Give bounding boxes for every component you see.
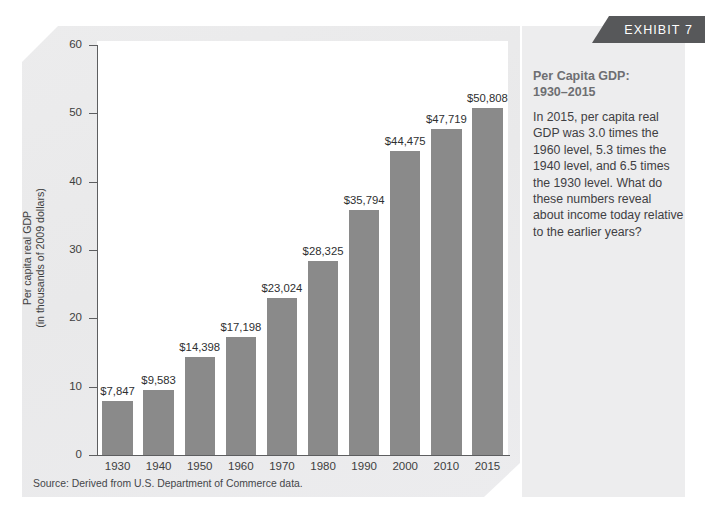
caption-body: In 2015, per capita real GDP was 3.0 tim… [533,109,685,240]
y-axis-tick-label: 30 [42,243,82,255]
bar [102,401,132,455]
y-axis-tick [89,455,97,456]
y-axis-tick [89,113,97,114]
bar-value-label: $50,808 [444,92,530,104]
bar [349,210,379,455]
y-axis-tick [89,250,97,251]
y-axis-tick-label: 40 [42,175,82,187]
y-axis-tick-label: 0 [42,448,82,460]
y-axis-tick [89,318,97,319]
bar [267,298,297,455]
y-axis-tick-label: 60 [42,38,82,50]
y-axis-tick [89,182,97,183]
source-note: Source: Derived from U.S. Department of … [33,478,303,489]
bar [431,129,461,455]
exhibit-banner: EXHIBIT 7 [592,16,705,43]
y-axis-tick-label: 50 [42,106,82,118]
caption-heading: Per Capita GDP: 1930–2015 [533,68,683,100]
bar [472,108,502,455]
y-axis-tick [89,45,97,46]
bar [390,151,420,455]
exhibit-banner-label: EXHIBIT 7 [624,23,693,37]
y-axis-tick-label: 20 [42,311,82,323]
bar [308,261,338,455]
bar [226,337,256,455]
y-axis-title: Per capita real GDP (in thousands of 200… [21,108,47,408]
bar [185,357,215,455]
x-axis-line [97,455,510,456]
x-axis-category-label: 2015 [463,460,512,472]
bar [143,390,173,455]
